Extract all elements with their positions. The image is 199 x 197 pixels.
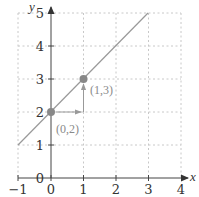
chart: −1 0 1 2 3 4 0 1 2 3 4 5 x y (0,2) (1,3) bbox=[0, 0, 199, 197]
x-tick-label: 1 bbox=[79, 182, 87, 197]
y-tick-label: 2 bbox=[36, 105, 44, 120]
y-axis-label: y bbox=[27, 0, 35, 14]
y-tick-label: 4 bbox=[36, 39, 44, 54]
y-tick-label: 3 bbox=[36, 72, 44, 87]
x-tick-label: −1 bbox=[8, 182, 27, 197]
x-tick-label: 4 bbox=[177, 182, 185, 197]
point-1-3 bbox=[80, 75, 88, 83]
x-tick-label: 3 bbox=[144, 182, 152, 197]
x-tick-label: 0 bbox=[47, 182, 55, 197]
point-0-2 bbox=[47, 108, 55, 116]
y-tick-label: 5 bbox=[36, 6, 44, 21]
point-label-1-3: (1,3) bbox=[90, 83, 113, 97]
x-axis-label: x bbox=[189, 169, 196, 184]
y-tick-label: 1 bbox=[36, 138, 44, 153]
x-tick-label: 2 bbox=[112, 182, 120, 197]
point-label-0-2: (0,2) bbox=[56, 122, 79, 136]
y-tick-label: 0 bbox=[36, 171, 44, 186]
y-tick-labels: 0 1 2 3 4 5 bbox=[36, 6, 44, 186]
